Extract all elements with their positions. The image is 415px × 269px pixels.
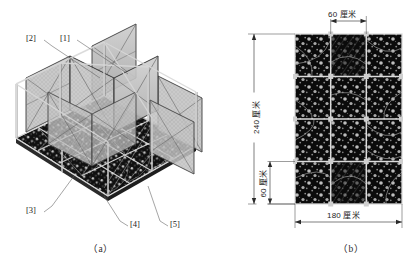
callout-5: [5] [170, 220, 180, 229]
dimension-label-top-60: 60 厘米 [327, 8, 357, 19]
panel-b-drawing [210, 0, 415, 240]
dimension-label-left-240: 240 厘米 [250, 93, 261, 143]
panel-a-caption: （a） [88, 241, 113, 255]
panel-b: 60 厘米 240 厘米 60 厘米 180 厘米 （b） [210, 0, 415, 269]
panel-a: [2] [1] [3] [4] [5] （a） [0, 0, 210, 269]
dimension-label-left-60: 60 厘米 [257, 161, 268, 207]
technical-figure: [2] [1] [3] [4] [5] （a） [0, 0, 415, 269]
callout-2: [2] [26, 34, 36, 43]
callout-3: [3] [26, 206, 36, 215]
callout-1: [1] [60, 34, 70, 43]
dimension-label-bottom-180: 180 厘米 [326, 209, 361, 220]
callout-4: [4] [130, 220, 140, 229]
panel-b-caption: （b） [338, 241, 364, 255]
tile-field [293, 32, 403, 207]
dimension-left-60 [264, 162, 295, 205]
